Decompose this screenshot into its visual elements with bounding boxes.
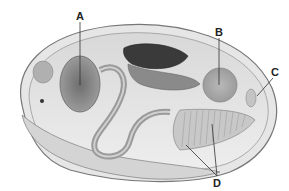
structure-b (203, 68, 237, 102)
label-b: B (215, 26, 223, 38)
label-c: C (271, 66, 279, 78)
clam-diagram: A B C D (0, 0, 289, 191)
mouth-dot (40, 99, 44, 103)
anterior-adductor-muscle (33, 61, 53, 83)
label-a: A (76, 10, 84, 22)
label-d: D (213, 177, 221, 189)
siphon (246, 89, 256, 107)
